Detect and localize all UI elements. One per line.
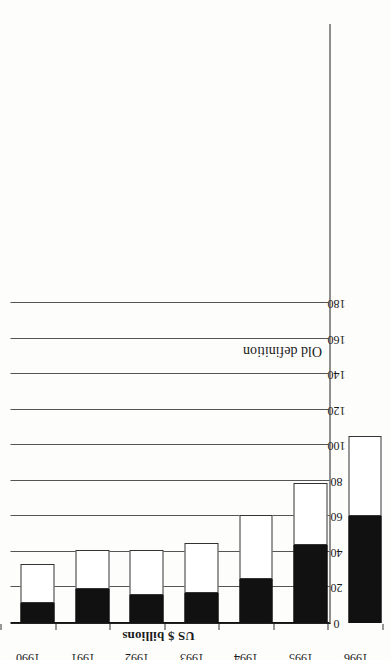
segment-short-term <box>75 589 109 623</box>
segment-long-term <box>20 564 54 603</box>
segment-short-term <box>239 579 273 623</box>
bar-chart: US $ billions 020406080100120140160180 O… <box>0 0 391 660</box>
gridline-120 <box>10 409 329 410</box>
segment-long-term <box>75 550 109 589</box>
gridline-180 <box>10 302 329 303</box>
segment-long-term <box>184 543 218 593</box>
bar-1996-6 <box>348 436 382 623</box>
gridline-140 <box>10 373 329 374</box>
category-label-1991: 1991 <box>59 650 105 660</box>
bar-1992-2 <box>129 550 163 623</box>
category-tick-0 <box>0 624 1 630</box>
gridline-80 <box>10 480 329 481</box>
segment-short-term <box>184 593 218 623</box>
bar-1994-4 <box>239 515 273 623</box>
bar-1993-3 <box>184 543 218 623</box>
category-label-1995: 1995 <box>278 650 324 660</box>
category-tick-6 <box>327 624 328 630</box>
segment-short-term <box>20 603 54 623</box>
segment-long-term <box>239 515 273 579</box>
gridline-0 <box>10 622 329 623</box>
category-tick-5 <box>273 624 274 630</box>
category-label-1992: 1992 <box>114 650 160 660</box>
gridline-100 <box>10 444 329 445</box>
category-tick-3 <box>164 624 165 630</box>
category-label-1996: 1996 <box>332 650 378 660</box>
category-label-1990: 1990 <box>5 650 51 660</box>
gridline-20 <box>10 586 329 587</box>
category-label-1993: 1993 <box>168 650 214 660</box>
plot-area: Old definitionNew definition <box>10 24 330 624</box>
category-label-1994: 1994 <box>223 650 269 660</box>
category-tick-1 <box>55 624 56 630</box>
annotation-old-definition: Old definition <box>222 343 342 359</box>
segment-long-term <box>129 550 163 594</box>
gridline-160 <box>10 338 329 339</box>
value-axis-title: US $ billions <box>98 628 218 644</box>
gridline-40 <box>10 551 329 552</box>
category-tick-7 <box>382 624 383 630</box>
annotation-new-definition: New definition <box>385 313 391 329</box>
rotated-figure-container: US $ billions 020406080100120140160180 O… <box>0 0 391 660</box>
segment-short-term <box>129 595 163 623</box>
segment-long-term <box>293 483 327 545</box>
bar-1995-5 <box>293 483 327 623</box>
bar-1990-0 <box>20 564 54 623</box>
category-tick-2 <box>109 624 110 630</box>
figure-page: US $ billions 020406080100120140160180 O… <box>0 0 391 660</box>
segment-short-term <box>293 545 327 623</box>
category-tick-4 <box>218 624 219 630</box>
gridline-60 <box>10 515 329 516</box>
segment-short-term <box>348 516 382 623</box>
segment-long-term <box>348 436 382 516</box>
bar-1991-1 <box>75 550 109 623</box>
